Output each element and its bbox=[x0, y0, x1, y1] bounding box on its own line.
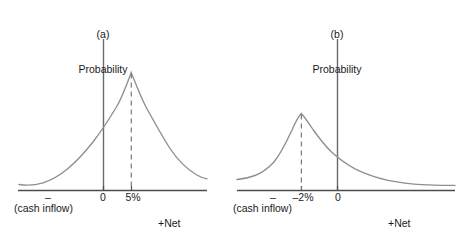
panel-title-block-a: (a) Probability bbox=[78, 6, 127, 98]
figure-container: (a) Probability – 0 5% (cash inflow) +Ne… bbox=[0, 0, 470, 247]
left-axis-note-b: (cash inflow) bbox=[233, 203, 292, 215]
right-axis-note-line-1-a: +Net bbox=[158, 217, 223, 230]
panel-label-b: (b) bbox=[312, 29, 361, 41]
zero-tick-label-a: 0 bbox=[100, 192, 106, 204]
right-axis-note-line-1-b: +Net bbox=[388, 217, 453, 230]
y-axis-label-a: Probability bbox=[78, 64, 127, 76]
panel-title-block-b: (b) Probability bbox=[312, 6, 361, 98]
panel-a: (a) Probability – 0 5% (cash inflow) +Ne… bbox=[0, 0, 235, 247]
mode-tick-label-b: –2% bbox=[292, 192, 313, 204]
right-axis-note-b: +Net deposit drain (cash outflow) bbox=[388, 192, 453, 247]
panel-label-a: (a) bbox=[78, 29, 127, 41]
density-curve-b bbox=[237, 114, 455, 186]
y-axis-label-b: Probability bbox=[312, 64, 361, 76]
mode-tick-label-a: 5% bbox=[125, 192, 140, 204]
panel-b: (b) Probability – –2% 0 (cash inflow) +N… bbox=[235, 0, 470, 247]
zero-tick-label-b: 0 bbox=[335, 192, 341, 204]
left-axis-note-a: (cash inflow) bbox=[14, 203, 73, 215]
right-axis-note-a: +Net deposit drain (cash outflow) bbox=[158, 192, 223, 247]
